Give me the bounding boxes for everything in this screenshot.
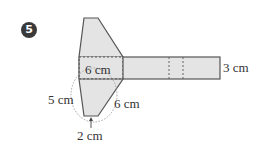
label-bottom-edge: 2 cm (77, 129, 103, 142)
net-figure (0, 0, 265, 152)
label-strip-height: 3 cm (223, 61, 249, 74)
label-middle-width: 6 cm (85, 63, 111, 76)
net-diagram: 5 6 cm 3 cm 5 cm 6 cm 2 cm (0, 0, 265, 152)
label-slant-left: 5 cm (48, 93, 74, 106)
top-trapezoid-face (79, 18, 123, 57)
side-strip (123, 57, 220, 79)
label-slant-right: 6 cm (114, 97, 140, 110)
